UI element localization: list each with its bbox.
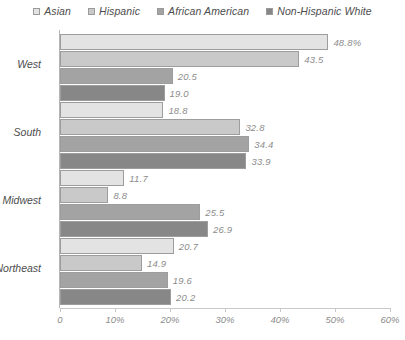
bar[interactable] xyxy=(60,272,168,288)
bar-value-label: 20.5 xyxy=(178,71,197,82)
chart-legend: AsianHispanicAfrican AmericanNon-Hispani… xyxy=(0,2,405,20)
bar-value-label: 19.6 xyxy=(173,275,192,286)
category-label-northeast: Northeast xyxy=(0,262,41,274)
bar-value-label: 34.4 xyxy=(254,139,273,150)
legend-label: Asian xyxy=(44,5,71,17)
legend-label: Non-Hispanic White xyxy=(277,5,372,17)
bar[interactable] xyxy=(60,34,328,50)
bar-value-label: 32.8 xyxy=(245,122,264,133)
bar[interactable] xyxy=(60,238,174,254)
legend-label: African American xyxy=(168,5,249,17)
category-label-south: South xyxy=(0,126,41,138)
bar[interactable] xyxy=(60,119,240,135)
bar-value-label: 48.8% xyxy=(333,37,361,48)
legend-swatch-icon xyxy=(157,8,164,15)
legend-item-hispanic[interactable]: Hispanic xyxy=(88,5,140,17)
bar-value-label: 14.9 xyxy=(147,258,166,269)
bar[interactable] xyxy=(60,51,299,67)
x-axis-tick-label: 60% xyxy=(380,314,399,325)
bar[interactable] xyxy=(60,102,163,118)
bar-value-label: 8.8 xyxy=(113,190,127,201)
bar-value-label: 18.8 xyxy=(168,105,187,116)
x-axis-tick-label: 10% xyxy=(105,314,124,325)
bar-group: 20.714.919.620.2 xyxy=(60,238,390,306)
bar-value-label: 43.5 xyxy=(304,54,323,65)
bar-row: 25.5 xyxy=(60,204,390,220)
bar-row: 8.8 xyxy=(60,187,390,203)
bar-row: 20.2 xyxy=(60,289,390,305)
bar-row: 34.4 xyxy=(60,136,390,152)
category-label-west: West xyxy=(0,58,41,70)
legend-label: Hispanic xyxy=(99,5,140,17)
bar-row: 19.0 xyxy=(60,85,390,101)
bar-value-label: 11.7 xyxy=(129,173,148,184)
x-axis-tick xyxy=(280,308,281,312)
bar-row: 11.7 xyxy=(60,170,390,186)
bar[interactable] xyxy=(60,289,171,305)
legend-swatch-icon xyxy=(88,8,95,15)
bar-value-label: 20.7 xyxy=(179,241,198,252)
bar-row: 18.8 xyxy=(60,102,390,118)
grouped-bar-chart: AsianHispanicAfrican AmericanNon-Hispani… xyxy=(0,0,405,340)
bar[interactable] xyxy=(60,187,108,203)
x-axis-tick xyxy=(335,308,336,312)
x-axis-tick xyxy=(115,308,116,312)
x-axis-tick xyxy=(225,308,226,312)
bar-value-label: 20.2 xyxy=(176,292,195,303)
bar-group: 48.8%43.520.519.0 xyxy=(60,34,390,102)
bar-row: 20.5 xyxy=(60,68,390,84)
x-axis-tick-label: 30% xyxy=(215,314,234,325)
bar-row: 20.7 xyxy=(60,238,390,254)
x-axis-tick xyxy=(390,308,391,312)
category-label-midwest: Midwest xyxy=(0,194,41,206)
legend-swatch-icon xyxy=(266,8,273,15)
bar-row: 32.8 xyxy=(60,119,390,135)
bar[interactable] xyxy=(60,85,165,101)
bar-group: 18.832.834.433.9 xyxy=(60,102,390,170)
bar-value-label: 19.0 xyxy=(170,88,189,99)
bar[interactable] xyxy=(60,68,173,84)
plot-area: 48.8%43.520.519.0West18.832.834.433.9Sou… xyxy=(60,30,390,308)
bar[interactable] xyxy=(60,153,246,169)
bar-row: 19.6 xyxy=(60,272,390,288)
legend-item-non-hispanic-white[interactable]: Non-Hispanic White xyxy=(266,5,372,17)
bar-row: 43.5 xyxy=(60,51,390,67)
x-axis-tick-label: 50% xyxy=(325,314,344,325)
legend-swatch-icon xyxy=(33,8,40,15)
bar-group: 11.78.825.526.9 xyxy=(60,170,390,238)
bar[interactable] xyxy=(60,221,208,237)
bar[interactable] xyxy=(60,204,200,220)
x-axis-tick-label: 0 xyxy=(57,314,62,325)
bar-row: 33.9 xyxy=(60,153,390,169)
bar-value-label: 25.5 xyxy=(205,207,224,218)
bar[interactable] xyxy=(60,255,142,271)
bar-row: 48.8% xyxy=(60,34,390,50)
legend-item-african-american[interactable]: African American xyxy=(157,5,249,17)
x-axis-tick xyxy=(170,308,171,312)
bar[interactable] xyxy=(60,136,249,152)
x-axis-tick-label: 40% xyxy=(270,314,289,325)
bar-row: 14.9 xyxy=(60,255,390,271)
bar[interactable] xyxy=(60,170,124,186)
bar-row: 26.9 xyxy=(60,221,390,237)
legend-item-asian[interactable]: Asian xyxy=(33,5,71,17)
bar-value-label: 26.9 xyxy=(213,224,232,235)
x-axis-tick-label: 20% xyxy=(160,314,179,325)
x-axis-tick xyxy=(60,308,61,312)
bar-value-label: 33.9 xyxy=(251,156,270,167)
